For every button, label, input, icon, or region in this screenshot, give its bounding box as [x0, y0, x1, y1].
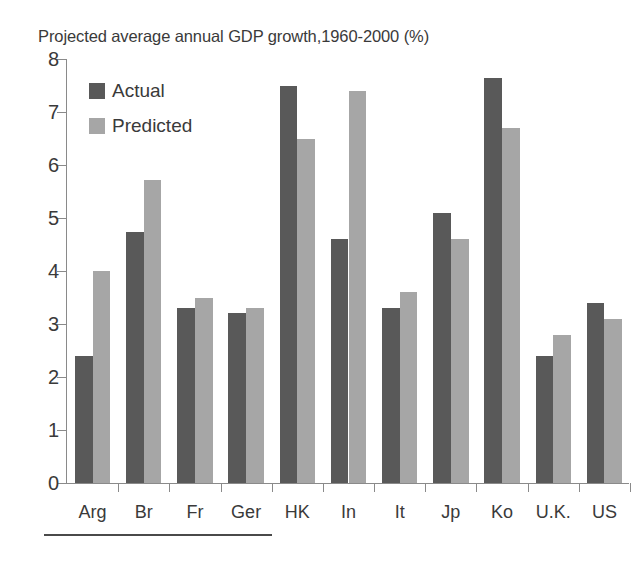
x-axis-label-Jp: Jp — [441, 502, 460, 523]
x-axis-tick-mark — [374, 483, 375, 492]
x-axis-label-It: It — [395, 502, 405, 523]
x-axis-tick-mark — [425, 483, 426, 492]
y-axis-tick-label: 8 — [48, 48, 59, 71]
y-axis-tick-label: 0 — [48, 472, 59, 495]
bar-It-predicted — [400, 292, 418, 483]
bar-Ko-actual — [484, 78, 502, 483]
y-axis-tick-label: 7 — [48, 101, 59, 124]
x-axis-tick-mark — [323, 483, 324, 492]
bar-In-predicted — [349, 91, 367, 483]
legend-label-actual: Actual — [112, 80, 165, 102]
bar-Jp-predicted — [451, 239, 469, 483]
x-axis-tick-mark — [221, 483, 222, 492]
bar-Fr-actual — [177, 308, 195, 483]
bar-Br-actual — [126, 232, 144, 483]
bar-US-predicted — [604, 319, 622, 483]
x-axis-label-Arg: Arg — [79, 502, 107, 523]
plot-area: 876543210 ArgBrFrGerHKInItJpKoU.K.US Act… — [66, 60, 629, 484]
y-axis-tick-label: 1 — [48, 419, 59, 442]
bar-Ger-actual — [228, 313, 246, 483]
gdp-growth-bar-chart: Projected average annual GDP growth,1960… — [0, 0, 642, 561]
x-axis-tick-mark — [272, 483, 273, 492]
y-axis-tick-label: 4 — [48, 260, 59, 283]
legend-item-actual: Actual — [89, 80, 192, 102]
bar-It-actual — [382, 308, 400, 483]
bar-UK-actual — [536, 356, 554, 483]
bar-Br-predicted — [144, 180, 162, 483]
legend-item-predicted: Predicted — [89, 115, 192, 137]
y-axis-tick-label: 3 — [48, 313, 59, 336]
bar-HK-actual — [280, 86, 298, 484]
bar-US-actual — [587, 303, 605, 483]
bar-Arg-actual — [75, 356, 93, 483]
chart-legend: ActualPredicted — [89, 80, 192, 150]
x-axis-tick-mark — [169, 483, 170, 492]
legend-label-predicted: Predicted — [112, 115, 192, 137]
bar-UK-predicted — [553, 335, 571, 483]
y-axis-tick-label: 2 — [48, 366, 59, 389]
y-axis-tick-label: 6 — [48, 154, 59, 177]
chart-title: Projected average annual GDP growth,1960… — [38, 27, 429, 46]
y-axis-tick-label: 5 — [48, 207, 59, 230]
bar-Fr-predicted — [195, 298, 213, 484]
x-axis-label-Fr: Fr — [186, 502, 203, 523]
x-axis-label-In: In — [341, 502, 356, 523]
legend-swatch-predicted — [89, 118, 105, 134]
x-axis-tick-mark — [630, 483, 631, 492]
bar-HK-predicted — [297, 139, 315, 484]
x-axis-tick-mark — [528, 483, 529, 492]
legend-swatch-actual — [89, 83, 105, 99]
x-axis-label-Br: Br — [135, 502, 153, 523]
x-axis-tick-mark — [579, 483, 580, 492]
bottom-rule — [44, 534, 272, 536]
x-axis-label-Ko: Ko — [491, 502, 513, 523]
bar-Ko-predicted — [502, 128, 520, 483]
bar-Ger-predicted — [246, 308, 264, 483]
bar-Arg-predicted — [93, 271, 111, 483]
x-axis-label-US: US — [592, 502, 617, 523]
x-axis-tick-mark — [118, 483, 119, 492]
bar-In-actual — [331, 239, 349, 483]
x-axis-label-HK: HK — [285, 502, 310, 523]
x-axis-tick-mark — [476, 483, 477, 492]
x-axis-label-UK: U.K. — [536, 502, 571, 523]
x-axis-label-Ger: Ger — [231, 502, 261, 523]
bar-Jp-actual — [433, 213, 451, 483]
